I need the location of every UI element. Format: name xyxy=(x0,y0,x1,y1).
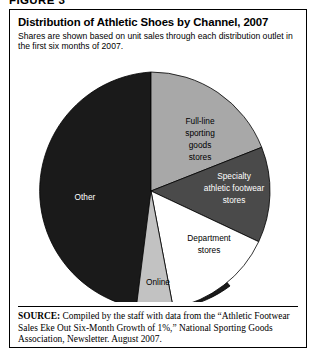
pie-label-department-stores-line1: Department xyxy=(187,233,231,243)
source-divider xyxy=(18,306,298,307)
pie-chart: Full-line sporting goods stores Specialt… xyxy=(10,50,304,302)
pie-chart-svg: Full-line sporting goods stores Specialt… xyxy=(10,50,304,302)
pie-label-specialty-line3: stores xyxy=(223,195,246,205)
figure-header: Distribution of Athletic Shoes by Channe… xyxy=(18,16,298,52)
figure-panel: Distribution of Athletic Shoes by Channe… xyxy=(9,9,307,348)
pie-label-specialty-line1: Specialty xyxy=(217,171,252,181)
pie-label-online: Online xyxy=(146,277,170,287)
pie-label-full-line-line4: stores xyxy=(189,152,212,162)
chart-title: Distribution of Athletic Shoes by Channe… xyxy=(18,16,298,29)
figure-page: FIGURE 3 Distribution of Athletic Shoes … xyxy=(0,0,318,354)
pie-label-full-line-line2: sporting xyxy=(185,128,215,138)
figure-number-label: FIGURE 3 xyxy=(9,0,65,6)
pie-label-full-line-line1: Full-line xyxy=(185,116,214,126)
pie-label-department-stores-line2: stores xyxy=(198,245,221,255)
pie-label-full-line-line3: goods xyxy=(189,140,212,150)
pie-label-other: Other xyxy=(75,192,96,202)
chart-subtitle: Shares are shown based on unit sales thr… xyxy=(18,31,296,52)
source-prefix: SOURCE: xyxy=(18,311,60,321)
pie-label-specialty-line2: athletic footwear xyxy=(204,183,265,193)
source-note: SOURCE: Compiled by the staff with data … xyxy=(18,311,297,346)
